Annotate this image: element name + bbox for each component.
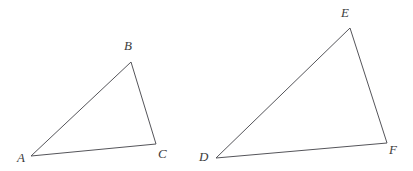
vertex-label-d: D bbox=[199, 150, 208, 163]
vertex-label-f: F bbox=[389, 143, 397, 156]
triangle-abc-shape bbox=[31, 62, 156, 156]
triangles-canvas bbox=[0, 0, 413, 171]
vertex-label-e: E bbox=[341, 6, 349, 19]
vertex-label-c: C bbox=[158, 147, 167, 160]
vertex-label-a: A bbox=[17, 151, 25, 164]
vertex-label-b: B bbox=[124, 39, 132, 52]
triangle-def-shape bbox=[216, 28, 387, 158]
geometry-figure: A B C D E F bbox=[0, 0, 413, 171]
